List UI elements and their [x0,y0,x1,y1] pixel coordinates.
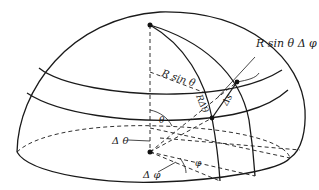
label-r-sin-theta-dphi: R sin θ Δ φ [255,37,317,50]
label-phi: φ [195,158,202,168]
d-theta-leader [128,140,150,141]
hemisphere-outline [17,12,305,158]
meridian-1 [150,25,220,181]
latitude-upper [39,68,282,94]
hemisphere-diagram: R sin θ Δ φ R sin θ RΔθ Δs θ Δ θ φ Δ φ [0,0,319,190]
leader-line [218,57,255,97]
horizontal-dash-1 [150,128,290,158]
d-phi-leader [158,162,176,172]
label-theta: θ [159,115,165,125]
base-radius-2 [150,152,255,176]
horizontal-dash-2 [160,138,300,150]
pole-point [148,23,153,28]
label-r-sin-theta: R sin θ [159,67,196,88]
element-corner-upper [235,80,240,85]
element-corner-lower [210,116,215,121]
label-d-theta: Δ θ [111,135,128,146]
center-point [148,150,153,155]
label-d-phi: Δ φ [142,169,160,180]
label-r-dtheta: RΔθ [194,92,211,115]
element-arc [237,73,259,82]
